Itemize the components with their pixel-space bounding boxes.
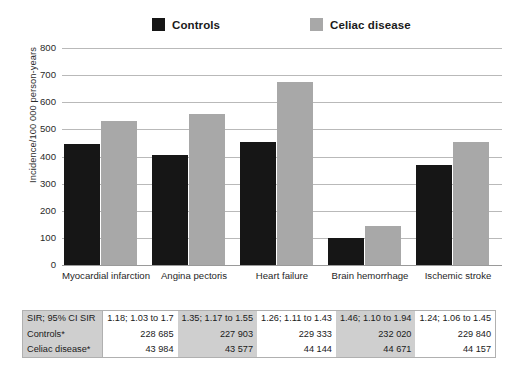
gridline bbox=[62, 48, 502, 49]
bar-celiac-disease-3 bbox=[365, 226, 401, 265]
y-axis-tick-label: 700 bbox=[24, 69, 56, 80]
table-row-label: SIR; 95% CI SIR bbox=[23, 311, 103, 326]
bar-controls-4 bbox=[416, 165, 452, 265]
bar-celiac-disease-1 bbox=[189, 114, 225, 265]
table-cell: 1.46; 1.10 to 1.94 bbox=[336, 311, 416, 326]
y-axis-tick-label: 400 bbox=[24, 151, 56, 162]
table-cell: 227 903 bbox=[178, 326, 258, 341]
table-row-label: Celiac disease* bbox=[23, 342, 103, 357]
table-cell: 44 671 bbox=[336, 342, 416, 357]
x-axis-category-label: Ischemic stroke bbox=[402, 270, 514, 281]
y-axis-tick-label: 600 bbox=[24, 96, 56, 107]
bar-chart: Incidence/100 000 person-years 010020030… bbox=[0, 0, 518, 300]
table-cell: 43 984 bbox=[103, 342, 178, 357]
y-axis-tick-label: 200 bbox=[24, 205, 56, 216]
table-row-label: Controls* bbox=[23, 326, 103, 341]
gridline bbox=[62, 265, 502, 266]
y-axis-tick-label: 0 bbox=[24, 259, 56, 270]
y-axis-tick-label: 500 bbox=[24, 123, 56, 134]
y-axis-tick-label: 300 bbox=[24, 178, 56, 189]
table-cell: 1.24; 1.06 to 1.45 bbox=[415, 311, 495, 326]
plot-area: 0100200300400500600700800Myocardial infa… bbox=[62, 48, 502, 265]
bar-controls-1 bbox=[152, 155, 188, 265]
table-cell: 1.35; 1.17 to 1.55 bbox=[178, 311, 258, 326]
table-cell: 228 685 bbox=[103, 326, 178, 341]
statistics-table: SIR; 95% CI SIR1.18; 1.03 to 1.71.35; 1.… bbox=[22, 310, 496, 358]
bar-controls-2 bbox=[240, 142, 276, 265]
bar-celiac-disease-0 bbox=[101, 121, 137, 265]
bar-controls-0 bbox=[64, 144, 100, 265]
table-cell: 229 333 bbox=[257, 326, 336, 341]
bar-celiac-disease-2 bbox=[277, 82, 313, 265]
table-cell: 1.26; 1.11 to 1.43 bbox=[257, 311, 336, 326]
table-cell: 44 144 bbox=[257, 342, 336, 357]
y-axis-tick-label: 800 bbox=[24, 42, 56, 53]
bar-controls-3 bbox=[328, 238, 364, 265]
table-cell: 44 157 bbox=[415, 342, 495, 357]
table-row: Controls*228 685227 903229 333232 020229… bbox=[23, 326, 495, 341]
table-cell: 232 020 bbox=[336, 326, 416, 341]
gridline bbox=[62, 75, 502, 76]
table-cell: 1.18; 1.03 to 1.7 bbox=[103, 311, 178, 326]
table-cell: 229 840 bbox=[415, 326, 495, 341]
table-row: SIR; 95% CI SIR1.18; 1.03 to 1.71.35; 1.… bbox=[23, 311, 495, 326]
table: SIR; 95% CI SIR1.18; 1.03 to 1.71.35; 1.… bbox=[23, 311, 495, 357]
bar-celiac-disease-4 bbox=[453, 142, 489, 265]
table-cell: 43 577 bbox=[178, 342, 258, 357]
y-axis-tick-label: 100 bbox=[24, 232, 56, 243]
table-row: Celiac disease*43 98443 57744 14444 6714… bbox=[23, 342, 495, 357]
